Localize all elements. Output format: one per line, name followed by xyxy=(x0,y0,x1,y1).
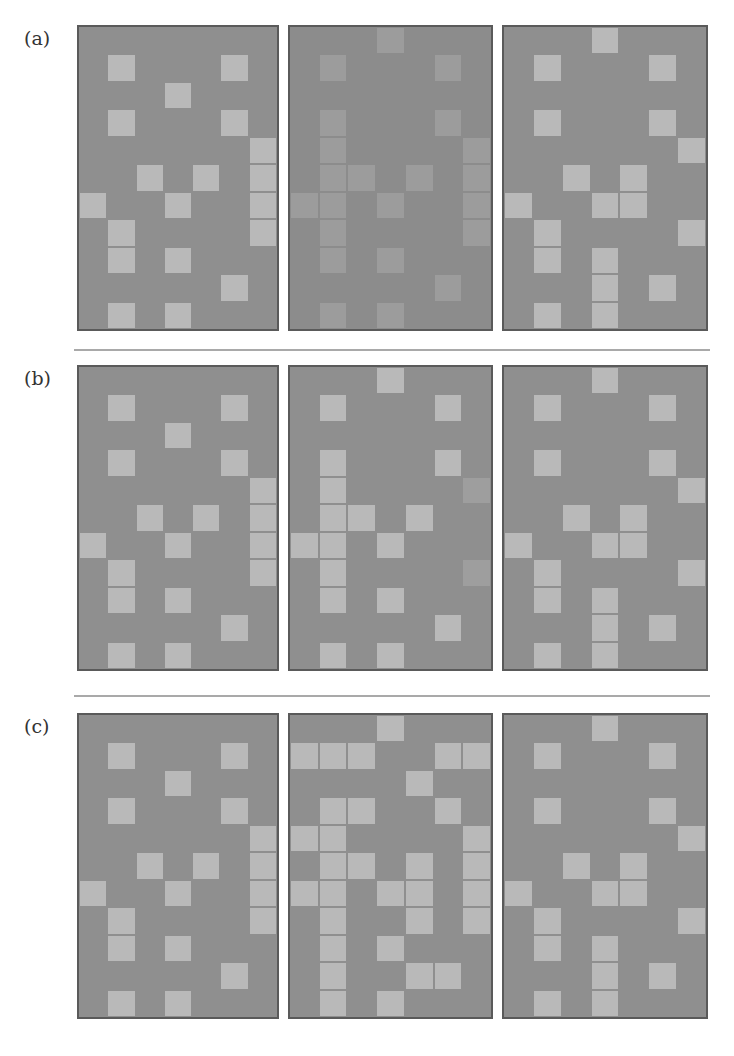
grid-cell xyxy=(592,615,619,640)
grid-cell xyxy=(377,991,404,1016)
row-separator xyxy=(74,349,710,351)
grid-cell xyxy=(505,533,532,558)
grid-cell xyxy=(463,743,490,768)
grid-cell xyxy=(291,743,318,768)
grid-cell xyxy=(678,478,705,503)
grid-cell xyxy=(592,533,619,558)
grid-cell xyxy=(534,450,561,475)
grid-cell xyxy=(377,643,404,668)
grid-cell xyxy=(320,505,347,530)
grid-cell xyxy=(165,303,191,328)
grid-cell xyxy=(348,165,375,190)
grid-cell xyxy=(406,505,433,530)
grid-cell xyxy=(463,881,490,906)
panel-target xyxy=(502,25,708,331)
grid-cell xyxy=(320,991,347,1016)
grid-cell xyxy=(108,220,134,245)
grid-cell xyxy=(463,560,490,585)
grid-cell xyxy=(165,881,191,906)
grid-cell xyxy=(620,881,647,906)
grid-cell xyxy=(137,165,163,190)
grid-cell xyxy=(250,505,276,530)
grid-cell xyxy=(463,220,490,245)
grid-cell xyxy=(250,193,276,218)
grid-cell xyxy=(221,450,247,475)
grid-cell xyxy=(165,771,191,796)
grid-cell xyxy=(320,138,347,163)
grid-cell xyxy=(108,908,134,933)
grid-cell xyxy=(250,165,276,190)
grid-cell xyxy=(320,165,347,190)
grid-cell xyxy=(137,505,163,530)
grid-cell xyxy=(320,55,347,80)
grid-cell xyxy=(377,368,404,393)
grid-cell xyxy=(534,743,561,768)
grid-cell xyxy=(505,881,532,906)
grid-cell xyxy=(291,533,318,558)
grid-cell xyxy=(563,165,590,190)
grid-cell xyxy=(221,110,247,135)
grid-cell xyxy=(291,826,318,851)
panel-target xyxy=(502,365,708,671)
grid-cell xyxy=(649,55,676,80)
grid-cell xyxy=(678,560,705,585)
grid-cell xyxy=(108,395,134,420)
grid-cell xyxy=(406,963,433,988)
grid-cell xyxy=(534,110,561,135)
grid-cell xyxy=(348,798,375,823)
grid-cell xyxy=(592,881,619,906)
grid-cell xyxy=(320,643,347,668)
grid-cell xyxy=(649,450,676,475)
grid-cell xyxy=(534,991,561,1016)
grid-cell xyxy=(108,248,134,273)
grid-cell xyxy=(250,560,276,585)
grid-cell xyxy=(463,478,490,503)
row-separator xyxy=(74,695,710,697)
grid-cell xyxy=(463,138,490,163)
grid-cell xyxy=(620,165,647,190)
grid-cell xyxy=(592,991,619,1016)
grid-cell xyxy=(108,303,134,328)
grid-cell xyxy=(250,881,276,906)
grid-cell xyxy=(108,560,134,585)
grid-cell xyxy=(463,826,490,851)
grid-cell xyxy=(320,110,347,135)
grid-cell xyxy=(678,220,705,245)
grid-cell xyxy=(534,560,561,585)
grid-cell xyxy=(348,743,375,768)
grid-cell xyxy=(592,303,619,328)
grid-cell xyxy=(320,478,347,503)
grid-cell xyxy=(137,853,163,878)
grid-cell xyxy=(649,275,676,300)
grid-cell xyxy=(320,303,347,328)
panel-modified-noisy xyxy=(288,713,493,1019)
grid-cell xyxy=(592,716,619,741)
grid-cell xyxy=(320,963,347,988)
grid-cell xyxy=(592,275,619,300)
grid-cell xyxy=(592,28,619,53)
grid-cell xyxy=(320,193,347,218)
grid-cell xyxy=(320,450,347,475)
grid-cell xyxy=(165,936,191,961)
grid-cell xyxy=(108,55,134,80)
row-label: (a) xyxy=(24,27,50,49)
grid-cell xyxy=(221,963,247,988)
grid-cell xyxy=(678,826,705,851)
grid-cell xyxy=(463,165,490,190)
grid-cell xyxy=(108,798,134,823)
grid-cell xyxy=(221,55,247,80)
grid-cell xyxy=(377,28,404,53)
grid-cell xyxy=(250,138,276,163)
grid-cell xyxy=(678,908,705,933)
grid-cell xyxy=(108,991,134,1016)
grid-cell xyxy=(250,908,276,933)
grid-cell xyxy=(165,991,191,1016)
grid-cell xyxy=(250,220,276,245)
grid-cell xyxy=(165,533,191,558)
grid-cell xyxy=(320,533,347,558)
grid-cell xyxy=(320,588,347,613)
grid-cell xyxy=(534,798,561,823)
panel-modified-low-contrast xyxy=(288,25,493,331)
grid-cell xyxy=(435,615,462,640)
grid-cell xyxy=(534,936,561,961)
